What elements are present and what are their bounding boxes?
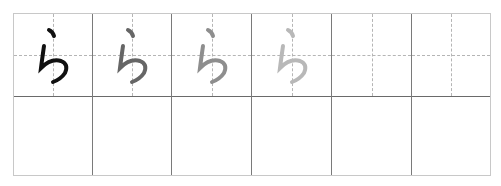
blank-cell-5[interactable] xyxy=(331,96,411,175)
ra-stroke-icon xyxy=(268,24,316,86)
practice-cell-6[interactable] xyxy=(411,14,491,96)
practice-cell-1[interactable] xyxy=(13,14,92,96)
practice-cell-4[interactable] xyxy=(251,14,331,96)
blank-cell-3[interactable] xyxy=(171,96,251,175)
horizontal-guide-line xyxy=(412,55,490,56)
hiragana-ra-glyph xyxy=(172,14,251,96)
practice-row xyxy=(13,13,491,97)
blank-cell-1[interactable] xyxy=(13,96,92,175)
ra-stroke-icon xyxy=(188,24,236,86)
hiragana-ra-glyph xyxy=(252,14,331,96)
ra-stroke-icon xyxy=(108,24,156,86)
horizontal-guide-line xyxy=(332,55,411,56)
hiragana-ra-glyph xyxy=(93,14,171,96)
handwriting-practice-sheet xyxy=(13,13,491,175)
blank-cell-4[interactable] xyxy=(251,96,331,175)
blank-cell-6[interactable] xyxy=(411,96,491,175)
practice-cell-3[interactable] xyxy=(171,14,251,96)
blank-cell-2[interactable] xyxy=(92,96,171,175)
practice-cell-5[interactable] xyxy=(331,14,411,96)
practice-cell-2[interactable] xyxy=(92,14,171,96)
blank-row xyxy=(13,96,491,176)
ra-stroke-icon xyxy=(29,24,77,86)
hiragana-ra-glyph xyxy=(14,14,92,96)
